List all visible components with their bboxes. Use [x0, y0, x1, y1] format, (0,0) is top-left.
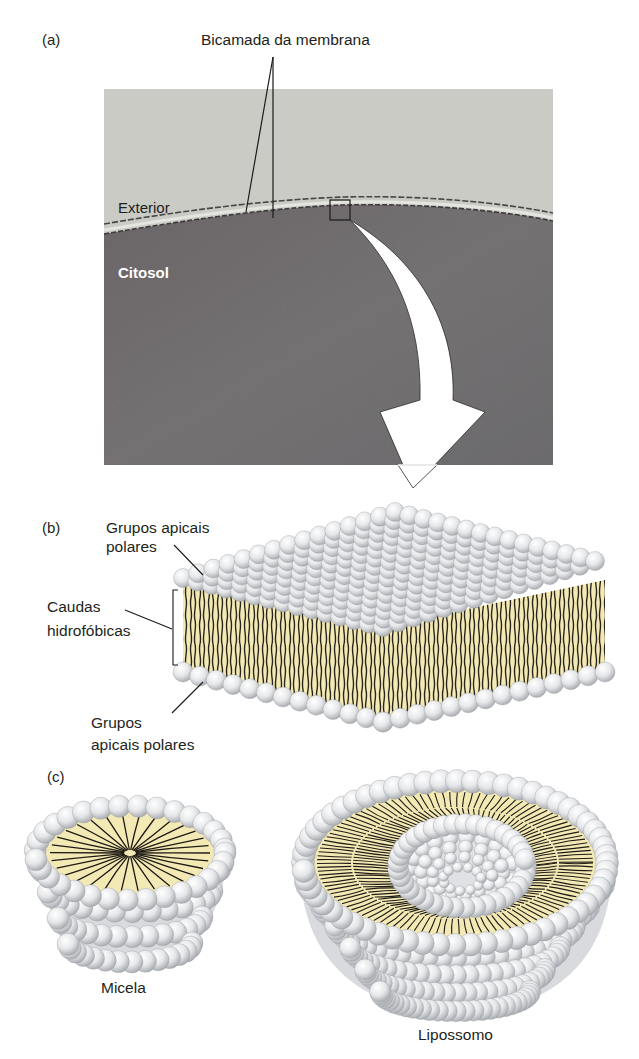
exterior-label: Exterior [118, 199, 170, 216]
bottom-polar-heads-label-line2: apicais polares [91, 735, 194, 754]
micelle [24, 795, 236, 973]
lipid-bilayer-block [173, 503, 615, 733]
top-polar-heads-label-line1: Grupos apicais [106, 518, 209, 537]
panel-c-label: (c) [47, 768, 65, 785]
cytosol-label: Citosol [118, 264, 169, 281]
liposome [292, 770, 619, 1022]
panel-b-label: (b) [42, 519, 60, 536]
bottom-polar-heads-label-line1: Grupos [91, 713, 142, 732]
micrograph-drawing [104, 89, 553, 465]
hydrophobic-tails-label-line2: hidrofóbicas [47, 621, 131, 640]
membrane-bilayer-label: Bicamada da membrana [201, 30, 370, 49]
hydrophobic-tails-label-line1: Caudas [47, 597, 100, 616]
electron-micrograph: Exterior Citosol [104, 89, 553, 465]
panel-a-label: (a) [42, 31, 60, 48]
micelle-label: Micela [101, 978, 146, 997]
top-polar-heads-label-line2: polares [106, 537, 157, 556]
liposome-label: Lipossomo [418, 1025, 493, 1044]
